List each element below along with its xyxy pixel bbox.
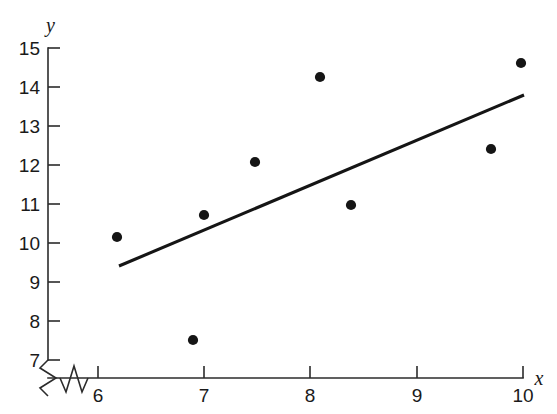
fitted-trend-line-group xyxy=(119,95,524,266)
x-tick-label-10: 10 xyxy=(512,385,533,406)
x-axis-break-icon xyxy=(60,366,88,392)
x-axis-title: x xyxy=(534,367,544,389)
y-tick-label-14: 14 xyxy=(19,77,41,98)
y-tick-label-9: 9 xyxy=(29,272,40,293)
data-point xyxy=(188,335,198,345)
x-axis: 6 7 8 9 10 x xyxy=(48,366,544,406)
x-tick-label-9: 9 xyxy=(412,385,423,406)
y-axis: 15 14 13 12 11 10 9 8 7 y xyxy=(19,14,60,396)
chart-canvas: 15 14 13 12 11 10 9 8 7 y 6 7 8 xyxy=(0,0,557,414)
y-tick-label-8: 8 xyxy=(29,311,40,332)
y-axis-title: y xyxy=(44,14,55,37)
y-tick-label-11: 11 xyxy=(20,194,40,215)
fitted-trend-line xyxy=(119,95,524,266)
y-tick-label-10: 10 xyxy=(19,233,40,254)
data-point xyxy=(199,210,209,220)
x-tick-label-6: 6 xyxy=(93,385,104,406)
data-point xyxy=(346,200,356,210)
y-tick-label-7: 7 xyxy=(29,350,40,371)
x-tick-label-8: 8 xyxy=(305,385,316,406)
y-tick-label-12: 12 xyxy=(19,155,40,176)
x-tick-label-7: 7 xyxy=(199,385,210,406)
data-point xyxy=(112,232,122,242)
data-point xyxy=(486,144,496,154)
y-tick-label-15: 15 xyxy=(19,38,40,59)
data-point-series xyxy=(112,58,526,345)
data-point xyxy=(516,58,526,68)
data-point xyxy=(250,157,260,167)
scatter-plot-figure: 15 14 13 12 11 10 9 8 7 y 6 7 8 xyxy=(0,0,557,414)
data-point xyxy=(315,72,325,82)
y-tick-label-13: 13 xyxy=(19,116,40,137)
